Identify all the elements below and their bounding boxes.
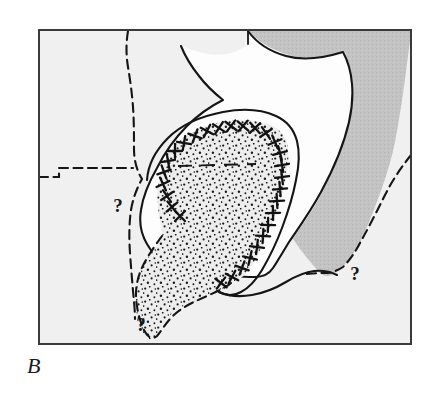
- panel-label: B: [27, 355, 41, 377]
- figure-root: ? ? ? B: [0, 0, 439, 400]
- qmark-east: ?: [350, 263, 360, 284]
- qmark-west: ?: [113, 195, 123, 216]
- qmark-south: ?: [136, 314, 146, 335]
- geologic-map-svg: ? ? ?: [0, 0, 439, 400]
